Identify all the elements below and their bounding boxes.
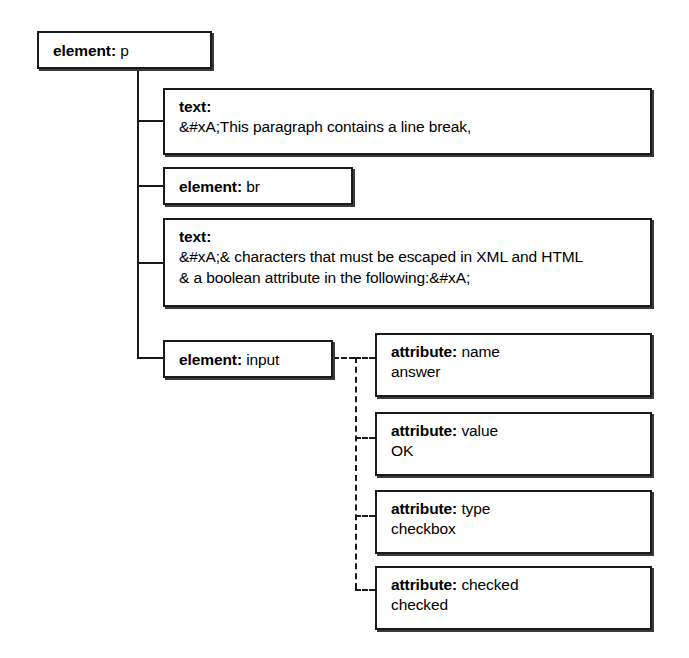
node-root-name: p <box>116 42 129 59</box>
node-br-name: br <box>242 178 260 195</box>
node-attribute-type: attribute: type checkbox <box>375 490 652 554</box>
node-attribute-type-header: attribute: type <box>391 499 650 519</box>
node-root-kind: element: <box>53 42 116 59</box>
node-attribute-checked-key: checked <box>457 576 518 593</box>
tree-branch-text-2 <box>137 262 163 264</box>
attribute-branch-value <box>355 437 375 439</box>
tree-trunk-line <box>137 69 139 359</box>
node-text-1-kind-line: text: <box>179 97 650 117</box>
node-input-kind: element: <box>179 351 242 368</box>
node-attribute-value-header: attribute: value <box>391 421 650 441</box>
attribute-branch-checked <box>355 589 375 591</box>
node-attribute-checked-kind: attribute: <box>391 576 457 593</box>
node-text-1: text: &#xA;This paragraph contains a lin… <box>163 88 652 155</box>
node-attribute-value-key: value <box>457 422 498 439</box>
node-text-2-kind-line: text: <box>179 227 650 247</box>
node-attribute-type-kind: attribute: <box>391 500 457 517</box>
tree-branch-input <box>137 357 163 359</box>
node-element-p: element: p <box>37 31 212 69</box>
node-text-2-kind: text: <box>179 228 211 245</box>
node-attribute-name: attribute: name answer <box>375 333 652 397</box>
node-element-input: element: input <box>163 340 333 378</box>
node-attribute-checked-value: checked <box>391 595 650 615</box>
attribute-connector-stub <box>333 357 355 359</box>
node-text-1-kind: text: <box>179 98 211 115</box>
tree-branch-text-1 <box>137 120 163 122</box>
node-attribute-checked: attribute: checked checked <box>375 566 652 630</box>
node-element-br: element: br <box>163 167 353 205</box>
node-br-line: element: br <box>179 177 351 197</box>
attribute-trunk-line <box>355 357 357 589</box>
node-attribute-name-kind: attribute: <box>391 343 457 360</box>
node-input-name: input <box>242 351 279 368</box>
node-input-line: element: input <box>179 350 331 370</box>
node-attribute-type-value: checkbox <box>391 519 650 539</box>
node-br-kind: element: <box>179 178 242 195</box>
node-text-2: text: &#xA;& characters that must be esc… <box>163 218 652 307</box>
node-text-2-content-line-1: &#xA;& characters that must be escaped i… <box>179 247 650 267</box>
node-attribute-name-header: attribute: name <box>391 342 650 362</box>
attribute-branch-type <box>355 515 375 517</box>
tree-branch-br <box>137 185 163 187</box>
node-attribute-value: attribute: value OK <box>375 412 652 476</box>
node-root-line: element: p <box>53 41 210 61</box>
node-attribute-name-key: name <box>457 343 500 360</box>
node-text-1-content: &#xA;This paragraph contains a line brea… <box>179 117 650 137</box>
node-attribute-type-key: type <box>457 500 490 517</box>
node-attribute-checked-header: attribute: checked <box>391 575 650 595</box>
node-attribute-value-value: OK <box>391 441 650 461</box>
attribute-branch-name <box>355 357 375 359</box>
node-text-2-content-line-2: & a boolean attribute in the following:&… <box>179 268 650 288</box>
dom-tree-diagram: element: p text: &#xA;This paragraph con… <box>0 0 689 658</box>
node-attribute-name-value: answer <box>391 362 650 382</box>
node-attribute-value-kind: attribute: <box>391 422 457 439</box>
